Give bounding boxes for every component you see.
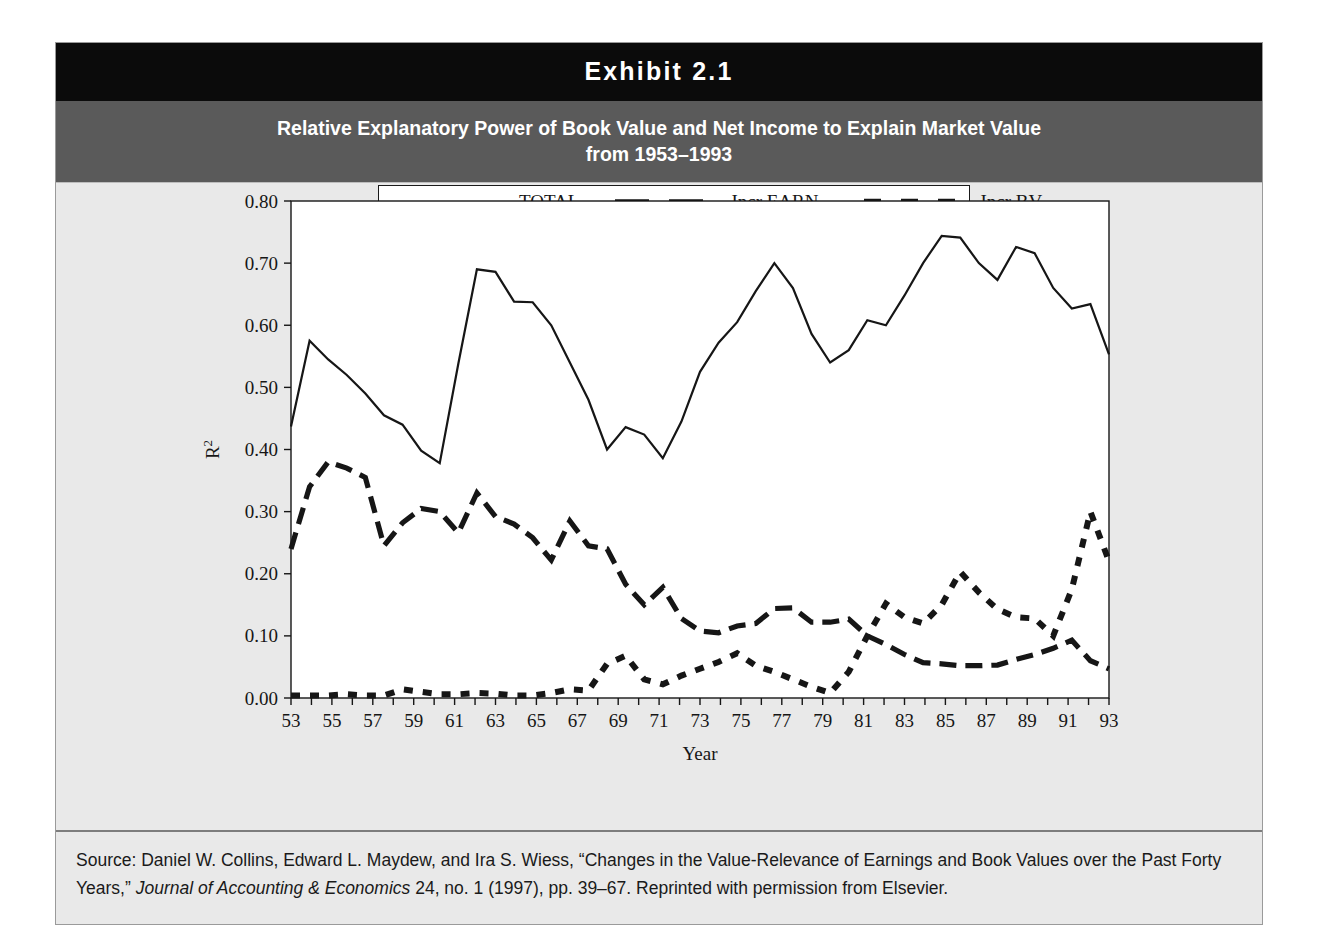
exhibit-subtitle-line1: Relative Explanatory Power of Book Value… (96, 115, 1222, 141)
plot-area (291, 201, 1109, 698)
x-axis-tick-label: 91 (1059, 710, 1078, 731)
x-axis-tick-label: 67 (568, 710, 587, 731)
exhibit-title: Exhibit 2.1 (56, 43, 1262, 101)
x-axis-tick-label: 79 (813, 710, 832, 731)
x-axis-tick-label: 75 (731, 710, 750, 731)
x-axis-tick-label: 59 (404, 710, 423, 731)
x-axis-tick-label: 85 (936, 710, 955, 731)
x-axis-title: Year (682, 743, 718, 764)
y-axis-tick-label: 0.10 (245, 625, 278, 646)
y-axis-tick-label: 0.60 (245, 315, 278, 336)
x-axis-tick-label: 93 (1100, 710, 1119, 731)
source-suffix: 24, no. 1 (1997), pp. 39–67. Reprinted w… (410, 878, 948, 898)
y-axis-tick-label: 0.20 (245, 563, 278, 584)
y-axis-tick-label: 0.40 (245, 439, 278, 460)
x-axis-tick-label: 73 (691, 710, 710, 731)
x-axis-tick-label: 77 (772, 710, 791, 731)
x-axis-tick-label: 55 (322, 710, 341, 731)
y-axis-tick-label: 0.30 (245, 501, 278, 522)
exhibit-subtitle-line2: from 1953–1993 (96, 141, 1222, 167)
svg-text:R2: R2 (200, 440, 223, 459)
chart-plot: 0.000.100.200.300.400.500.600.700.805355… (56, 183, 1262, 815)
x-axis-tick-label: 61 (445, 710, 464, 731)
exhibit-panel: Exhibit 2.1 Relative Explanatory Power o… (55, 42, 1263, 925)
y-axis-tick-label: 0.00 (245, 688, 278, 709)
x-axis-tick-label: 65 (527, 710, 546, 731)
x-axis-tick-label: 63 (486, 710, 505, 731)
x-axis-tick-label: 89 (1018, 710, 1037, 731)
y-axis-title: R2 (200, 440, 223, 459)
x-axis-tick-label: 53 (282, 710, 301, 731)
x-axis-tick-label: 87 (977, 710, 996, 731)
y-axis-tick-label: 0.50 (245, 377, 278, 398)
source-journal: Journal of Accounting & Economics (136, 878, 411, 898)
source-band: Source: Daniel W. Collins, Edward L. May… (56, 830, 1262, 924)
x-axis-tick-label: 81 (854, 710, 873, 731)
chart-body: TOTAL Incr EARN Incr BV 0.000.100.200.30… (56, 182, 1262, 815)
x-axis-tick-label: 71 (650, 710, 669, 731)
y-axis-tick-label: 0.80 (245, 191, 278, 212)
x-axis-tick-label: 83 (895, 710, 914, 731)
x-axis-tick-label: 69 (609, 710, 628, 731)
exhibit-subtitle: Relative Explanatory Power of Book Value… (56, 101, 1262, 182)
source-text: Source: Daniel W. Collins, Edward L. May… (76, 846, 1242, 902)
y-axis-tick-label: 0.70 (245, 253, 278, 274)
x-axis-tick-label: 57 (363, 710, 382, 731)
